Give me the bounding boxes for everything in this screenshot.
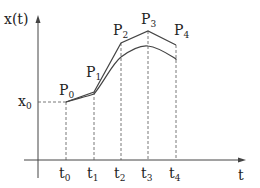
x-axis-label: t: [238, 167, 244, 183]
tick-label-t3: t3: [141, 165, 153, 183]
y-axis-label: x(t): [4, 11, 28, 27]
point-label-p3: P3: [141, 11, 156, 29]
point-label-p1: P1: [86, 64, 101, 82]
diagram-canvas: x(t) t x0 t0 t1 t2 t3 t4 P0 P1 P2 P3 P4: [0, 0, 260, 188]
y-axis-arrow-icon: [36, 15, 41, 23]
point-label-p2: P2: [113, 22, 128, 40]
tick-label-t0: t0: [59, 165, 71, 183]
tick-label-t1: t1: [87, 165, 98, 183]
point-label-p4: P4: [174, 22, 189, 40]
point-label-p0: P0: [59, 82, 74, 100]
tick-label-t4: t4: [169, 165, 181, 183]
x-axis-arrow-icon: [238, 158, 246, 163]
tick-label-t2: t2: [114, 165, 125, 183]
approximation-polyline: [66, 31, 176, 102]
initial-value-label: x0: [18, 93, 32, 111]
